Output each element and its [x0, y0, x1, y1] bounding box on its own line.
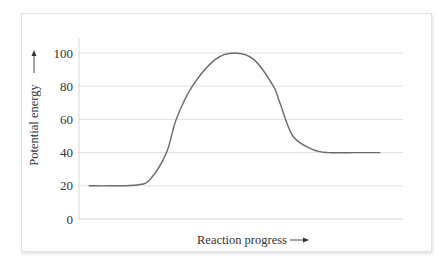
- x-axis-title: Reaction progress: [197, 233, 309, 247]
- energy-diagram-chart: 020406080100 Potential energy Reaction p…: [0, 0, 447, 265]
- y-tick-label: 20: [60, 178, 73, 193]
- y-axis-title: Potential energy: [27, 50, 41, 166]
- y-tick-label: 0: [67, 212, 74, 227]
- y-axis-arrowhead-icon: [32, 50, 37, 56]
- y-tick-label: 60: [60, 112, 73, 127]
- y-tick-labels: 020406080100: [54, 46, 74, 227]
- x-axis-arrowhead-icon: [303, 238, 309, 243]
- gridlines: [79, 53, 403, 186]
- y-tick-label: 80: [60, 79, 73, 94]
- y-axis-title-text: Potential energy: [27, 84, 41, 166]
- y-tick-label: 100: [54, 46, 74, 61]
- x-axis-title-text: Reaction progress: [197, 233, 287, 247]
- y-tick-label: 40: [60, 145, 73, 160]
